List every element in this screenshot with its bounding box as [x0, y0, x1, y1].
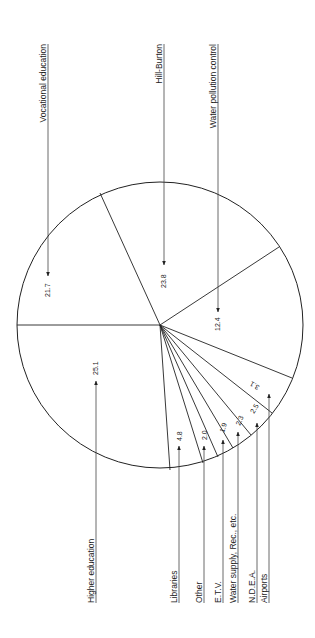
label-other: Other [194, 582, 204, 603]
value-hill-burton: 23.8 [160, 274, 167, 288]
value-ndea: 2.5 [249, 402, 260, 414]
slice-boundaries [17, 193, 292, 470]
top-labels: Vocational education Hill-Burton Water p… [38, 44, 218, 129]
value-airports: 3.1 [248, 380, 260, 391]
bottom-labels: Higher education Libraries Other E.T.V. … [86, 514, 269, 603]
value-higher-education: 25.1 [92, 361, 99, 375]
value-water-pollution: 12.4 [214, 317, 221, 331]
label-airports: Airports [259, 574, 269, 603]
label-vocational-education: Vocational education [38, 44, 48, 123]
value-vocational: 21.7 [44, 283, 51, 297]
value-labels: 21.7 23.8 12.4 25.1 4.8 2.0 1.9 2.3 2.5 … [44, 274, 261, 441]
leader-lines-top [48, 44, 218, 312]
leader-lines-bottom [96, 381, 269, 603]
value-libraries: 4.8 [176, 431, 183, 441]
label-libraries: Libraries [169, 570, 179, 603]
label-water-pollution-control: Water pollution control [208, 44, 218, 128]
label-ndea: N.D.E.A. [247, 570, 257, 603]
label-hill-burton: Hill-Burton [154, 44, 164, 84]
pie-chart: Vocational education Hill-Burton Water p… [0, 0, 315, 638]
label-higher-education: Higher education [86, 538, 96, 603]
label-water-supply: Water supply, Rec., etc. [228, 514, 238, 603]
value-etv: 1.9 [218, 422, 228, 434]
label-etv: E.T.V. [213, 581, 223, 603]
value-other: 2.0 [201, 430, 208, 440]
